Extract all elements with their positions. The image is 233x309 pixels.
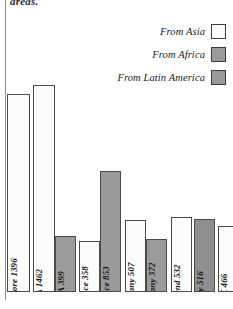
bar-germany-372[interactable]: Germany 372 (146, 239, 167, 292)
bar-label: France 358 (81, 266, 90, 292)
chart-page: areas. From AsiaFrom AfricaFrom Latin Am… (0, 0, 233, 309)
bar-usa-1462[interactable]: USA 1462 (33, 85, 55, 292)
bar-label: Holland 532 (173, 264, 182, 292)
bar-label: France 853 (102, 266, 111, 292)
bar-label: Italy 516 (196, 271, 205, 292)
bar-holland-532[interactable]: Holland 532 (171, 217, 192, 292)
bar-label: USA 399 (57, 271, 66, 292)
bar-chart-plot-area: Singapore 1396USA 1462USA 399France 358F… (0, 0, 233, 309)
bar-label: Germany 507 (127, 262, 136, 292)
bar-label: Germany 372 (148, 262, 157, 292)
bar-france-853[interactable]: France 853 (100, 171, 121, 292)
bar-uk-466[interactable]: UK 466 (218, 226, 233, 292)
bar-usa-399[interactable]: USA 399 (55, 236, 76, 292)
bar-label: Singapore 1396 (10, 258, 19, 292)
bar-italy-516[interactable]: Italy 516 (194, 219, 215, 292)
bar-germany-507[interactable]: Germany 507 (125, 220, 146, 292)
bar-singapore-1396[interactable]: Singapore 1396 (7, 94, 30, 292)
bar-france-358[interactable]: France 358 (79, 241, 100, 292)
bar-label: USA 1462 (35, 269, 44, 292)
bar-label: UK 466 (220, 274, 229, 292)
